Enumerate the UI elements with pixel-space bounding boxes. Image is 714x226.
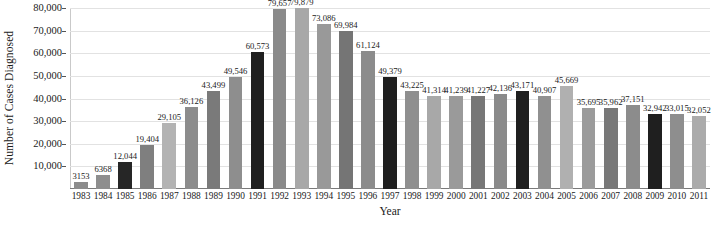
bar-group[interactable]: 79,657	[273, 8, 287, 189]
bar-group[interactable]: 43,499	[207, 8, 221, 189]
bar-group[interactable]: 73,086	[317, 8, 331, 189]
x-axis-tick-label: 1998	[401, 191, 423, 202]
x-axis-tick-label: 2007	[600, 191, 622, 202]
bar-value-label: 43,499	[202, 80, 226, 90]
bar-value-label: 42,136	[489, 83, 513, 93]
y-axis-tick-label: 70,000	[33, 26, 62, 36]
x-axis-tick-label: 1992	[269, 191, 291, 202]
y-axis-tick-mark	[62, 166, 66, 167]
x-axis-tick-label: 1989	[202, 191, 224, 202]
x-axis-tick-label: 1988	[180, 191, 202, 202]
bar-value-label: 36,126	[180, 96, 204, 106]
bar[interactable]: 32,052	[692, 116, 706, 189]
y-axis-tick-labels: 10,00020,00030,00040,00050,00060,00070,0…	[18, 0, 66, 190]
bar-group[interactable]: 43,171	[516, 8, 530, 189]
x-axis-title: Year	[70, 205, 710, 217]
y-axis-tick-label: 30,000	[33, 116, 62, 126]
bar-group[interactable]: 69,984	[339, 8, 353, 189]
bar-group[interactable]: 49,546	[229, 8, 243, 189]
x-axis-tick-label: 1995	[335, 191, 357, 202]
y-axis-tick-label: 20,000	[33, 139, 62, 149]
bar-value-label: 60,573	[246, 41, 270, 51]
bar[interactable]: 35,695	[582, 108, 596, 189]
bar-group[interactable]: 37,151	[626, 8, 640, 189]
bar-group[interactable]: 32,052	[692, 8, 706, 189]
bar-group[interactable]: 49,379	[383, 8, 397, 189]
x-axis-tick-label: 1986	[136, 191, 158, 202]
bar-group[interactable]: 6368	[96, 8, 110, 189]
x-axis-tick-label: 2000	[445, 191, 467, 202]
bar-group[interactable]: 45,669	[560, 8, 574, 189]
bar[interactable]: 43,225	[405, 91, 419, 189]
bar-group[interactable]: 41,314	[427, 8, 441, 189]
bar-value-label: 35,695	[577, 97, 601, 107]
y-axis-tick-mark	[62, 99, 66, 100]
bar[interactable]: 60,573	[251, 52, 265, 189]
x-axis-tick-label: 1996	[357, 191, 379, 202]
bar[interactable]: 12,044	[118, 162, 132, 189]
bar[interactable]: 41,314	[427, 96, 441, 189]
bar[interactable]: 42,136	[494, 94, 508, 189]
bar[interactable]: 33,015	[670, 114, 684, 189]
x-axis-tick-label: 1999	[423, 191, 445, 202]
bar-group[interactable]: 33,015	[670, 8, 684, 189]
bar[interactable]: 45,669	[560, 86, 574, 189]
x-axis-tick-label: 1985	[114, 191, 136, 202]
bar-group[interactable]: 35,695	[582, 8, 596, 189]
bar-group[interactable]: 19,404	[140, 8, 154, 189]
bar[interactable]: 49,379	[383, 77, 397, 189]
bar[interactable]: 40,907	[538, 96, 552, 189]
bar-group[interactable]: 40,907	[538, 8, 552, 189]
bar[interactable]: 79,879	[295, 8, 309, 189]
bar-chart: Number of Cases Diagnosed 10,00020,00030…	[0, 0, 714, 226]
bar-group[interactable]: 32,942	[648, 8, 662, 189]
bar[interactable]: 41,227	[471, 96, 485, 189]
bar-value-label: 35,962	[599, 97, 623, 107]
bar-value-label: 32,942	[643, 103, 667, 113]
bar-group[interactable]: 41,239	[449, 8, 463, 189]
bar-group[interactable]: 3153	[74, 8, 88, 189]
bar[interactable]: 6368	[96, 175, 110, 189]
bar-value-label: 3153	[72, 171, 89, 181]
y-axis-tick-label: 50,000	[33, 71, 62, 81]
bar-value-label: 40,907	[533, 85, 557, 95]
bar[interactable]: 43,499	[207, 91, 221, 189]
bar[interactable]: 73,086	[317, 24, 331, 189]
bar[interactable]: 32,942	[648, 114, 662, 189]
bar-value-label: 32,052	[687, 105, 711, 115]
x-axis-tick-label: 2010	[666, 191, 688, 202]
bar[interactable]: 43,171	[516, 91, 530, 189]
bar-group[interactable]: 42,136	[494, 8, 508, 189]
x-axis-tick-label: 2006	[578, 191, 600, 202]
x-axis-tick-label: 1991	[247, 191, 269, 202]
x-axis-tick-label: 2008	[622, 191, 644, 202]
y-axis-tick-mark	[62, 8, 66, 9]
x-axis-tick-label: 2005	[556, 191, 578, 202]
y-axis-tick-mark	[62, 53, 66, 54]
bar-group[interactable]: 36,126	[185, 8, 199, 189]
bar-group[interactable]: 41,227	[471, 8, 485, 189]
bar[interactable]: 49,546	[229, 77, 243, 189]
bar[interactable]: 35,962	[604, 108, 618, 189]
y-axis-tick-mark	[62, 31, 66, 32]
bar-group[interactable]: 61,124	[361, 8, 375, 189]
bar-group[interactable]: 35,962	[604, 8, 618, 189]
bar-group[interactable]: 29,105	[162, 8, 176, 189]
bar[interactable]: 41,239	[449, 96, 463, 189]
bar[interactable]: 69,984	[339, 31, 353, 189]
bar-group[interactable]: 12,044	[118, 8, 132, 189]
bar[interactable]: 37,151	[626, 105, 640, 189]
bar-value-label: 43,225	[400, 80, 424, 90]
bar[interactable]: 3153	[74, 182, 88, 189]
bar[interactable]: 79,657	[273, 9, 287, 189]
bar-value-label: 79,879	[290, 0, 314, 7]
bar[interactable]: 61,124	[361, 51, 375, 189]
bar[interactable]: 36,126	[185, 107, 199, 189]
bar-group[interactable]: 43,225	[405, 8, 419, 189]
bar-value-label: 29,105	[157, 112, 181, 122]
bar-group[interactable]: 79,879	[295, 8, 309, 189]
bar-group[interactable]: 60,573	[251, 8, 265, 189]
bar-value-label: 45,669	[555, 75, 579, 85]
bar[interactable]: 19,404	[140, 145, 154, 189]
bar[interactable]: 29,105	[162, 123, 176, 189]
